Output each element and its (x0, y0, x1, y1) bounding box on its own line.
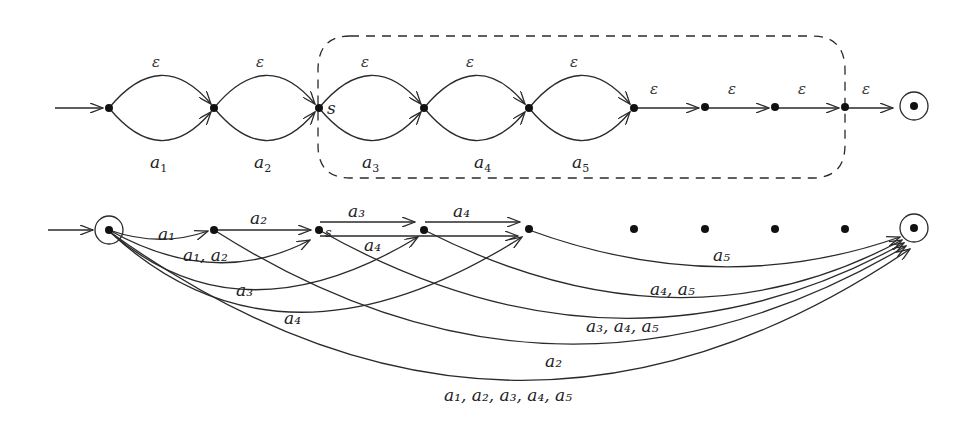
state-node (420, 104, 428, 112)
edge-label: ε (570, 53, 578, 71)
edge-label-a4-mid: a₄ (364, 235, 381, 255)
state-node-s (315, 104, 323, 112)
edge-label: ε (798, 80, 806, 98)
edge-label-a2: a₂ (545, 351, 562, 371)
state-node (525, 225, 533, 233)
edge-label: ε (650, 80, 658, 98)
state-node (420, 226, 428, 234)
state-node (630, 104, 638, 112)
edge-label-all: a₁, a₂, a₃, a₄, a₅ (444, 385, 572, 405)
edge-label: ε (862, 80, 870, 98)
automata-diagram: s ε ε ε ε ε a1 a2 a3 a4 a5 ε ε ε ε (0, 0, 972, 430)
state-node (771, 225, 779, 233)
edge-label: ε (466, 53, 474, 71)
state-node (841, 103, 849, 111)
edge-label: a2 (254, 152, 271, 175)
state-node (525, 104, 533, 112)
accept-state-node (910, 102, 918, 110)
edge-label-a3a4a5: a₃, a₄, a₅ (586, 316, 659, 336)
state-node (701, 225, 709, 233)
edge-label-a1a2: a₁, a₂ (183, 245, 228, 265)
edge-label: ε (256, 53, 264, 71)
edge-label: a1 (150, 152, 167, 175)
edge-label-a3-top: a₃ (348, 201, 365, 221)
state-node (210, 104, 218, 112)
state-node (105, 104, 113, 112)
state-node-s (315, 226, 323, 234)
epsilon-loop-4 (424, 75, 525, 140)
edge-label-a4a5: a₄, a₅ (650, 279, 695, 299)
edge-label: ε (361, 53, 369, 71)
bottom-automaton: s a₁ a₂ a₃ a₄ a₁, a₂ a₄ a₃ a₄ a₅ a₄, a₅ … (48, 201, 928, 405)
epsilon-loop-2 (214, 75, 315, 140)
top-automaton: s ε ε ε ε ε a1 a2 a3 a4 a5 ε ε ε ε (55, 36, 928, 178)
epsilon-loop-5 (529, 75, 630, 140)
edge-label: a3 (362, 152, 379, 175)
accept-state-node (910, 224, 918, 232)
edge-a2 (214, 230, 906, 344)
edge-label-a1: a₁ (158, 224, 175, 244)
edge-label: a5 (572, 152, 589, 175)
edge-label: ε (152, 53, 160, 71)
edge-label: a4 (474, 152, 491, 175)
state-node (771, 103, 779, 111)
edge-label-a2-top: a₂ (250, 208, 267, 228)
start-accept-state-node (105, 226, 113, 234)
edge-label-a4: a₄ (284, 308, 301, 328)
epsilon-loop-1 (109, 75, 211, 140)
edge-label: ε (728, 80, 736, 98)
edge-label-a3: a₃ (236, 280, 253, 300)
state-node (210, 226, 218, 234)
edge-label-a5: a₅ (713, 245, 730, 265)
state-node (701, 103, 709, 111)
edge-label-a4-top: a₄ (453, 201, 470, 221)
state-label-s: s (327, 98, 336, 118)
state-node (841, 225, 849, 233)
edge-all (110, 232, 910, 380)
state-label-s: s (325, 225, 332, 240)
state-node (630, 225, 638, 233)
